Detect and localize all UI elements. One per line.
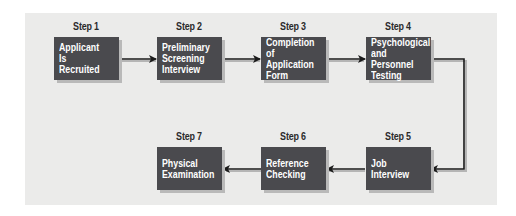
step-6-box: Reference Checking	[261, 147, 326, 190]
step-4-label: Step 4	[368, 20, 428, 32]
step-7-text: Physical Examination	[162, 158, 214, 180]
step-5-label: Step 5	[368, 130, 428, 142]
step-5-text: Job Interview	[371, 158, 409, 180]
step-1-box: Applicant Is Recruited	[54, 37, 119, 80]
step-3-text: Completion of Application Form	[266, 37, 314, 81]
step-3-label: Step 3	[263, 20, 323, 32]
connectors	[0, 0, 516, 216]
step-2-text: Preliminary Screening Interview	[162, 42, 210, 75]
step-3-box: Completion of Application Form	[261, 37, 326, 80]
step-4-text: Psychological and Personnel Testing	[371, 37, 430, 81]
arrow-4-5	[430, 59, 464, 169]
step-1-text: Applicant Is Recruited	[59, 42, 107, 75]
step-7-label: Step 7	[159, 130, 219, 142]
step-2-label: Step 2	[159, 20, 219, 32]
step-1-label: Step 1	[56, 20, 116, 32]
step-2-box: Preliminary Screening Interview	[157, 37, 222, 80]
step-6-text: Reference Checking	[266, 158, 309, 180]
step-7-box: Physical Examination	[157, 147, 222, 190]
step-5-box: Job Interview	[366, 147, 431, 190]
step-4-box: Psychological and Personnel Testing	[366, 37, 431, 80]
step-6-label: Step 6	[263, 130, 323, 142]
